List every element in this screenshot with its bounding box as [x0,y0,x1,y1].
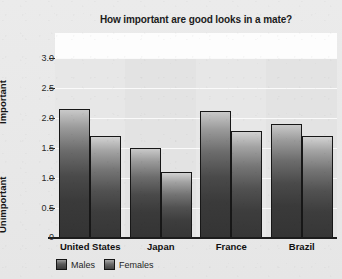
ytick-label-0: 0 [30,232,54,242]
bar-group-brazil [267,33,338,238]
ytick-label-2-0: 2.0 [30,113,54,123]
bar-japan-females[interactable] [161,172,192,238]
legend-item-females[interactable]: Females [104,259,154,270]
legend-label-males: Males [71,260,95,270]
bar-france-males[interactable] [200,111,231,238]
x-axis-line [48,237,337,239]
bar-japan-males[interactable] [130,148,161,238]
bar-group-japan [126,33,197,238]
xlabel-france: France [196,241,267,252]
bar-united-states-males[interactable] [59,109,90,238]
bar-brazil-females[interactable] [302,136,333,238]
legend-item-males[interactable]: Males [56,259,95,270]
y-axis-label-unimportant: Unimportant [0,177,8,233]
ytick-label-1-0: 1.0 [30,173,54,183]
legend-swatch-males-icon [56,259,67,270]
bar-brazil-males[interactable] [271,124,302,238]
bar-group-france [196,33,267,238]
chart-title: How important are good looks in a mate? [55,14,337,25]
xlabel-japan: Japan [126,241,197,252]
xlabel-brazil: Brazil [267,241,338,252]
plot-area [55,33,337,238]
chart-legend: Males Females [56,259,154,270]
ytick-label-2-5: 2.5 [30,83,54,93]
y-axis-label-important: Important [0,80,8,124]
legend-label-females: Females [119,260,154,270]
legend-swatch-females-icon [104,259,115,270]
bar-france-females[interactable] [231,131,262,238]
ytick-label-3-0: 3.0 [30,53,54,63]
bar-united-states-females[interactable] [90,136,121,238]
ytick-label-0-5: 0.5 [30,203,54,213]
xlabel-united-states: United States [55,241,126,252]
ytick-label-1-5: 1.5 [30,143,54,153]
chart-figure: How important are good looks in a mate? [0,0,342,279]
bar-group-united-states [55,33,126,238]
